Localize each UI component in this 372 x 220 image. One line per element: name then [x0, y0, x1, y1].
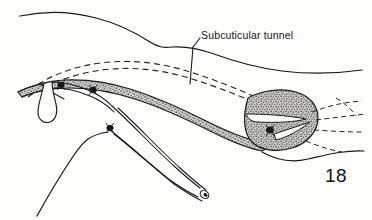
figure-number: 18 — [325, 166, 347, 185]
upper-skin-contour — [20, 12, 362, 73]
suture-knot-catheter — [106, 123, 114, 133]
catheter-tip — [199, 189, 211, 200]
annotation-leader-line — [190, 38, 200, 84]
right-skin-contour — [262, 151, 364, 161]
surgical-figure: Subcuticular tunnel 18 — [0, 0, 372, 220]
subcuticular-tunnel-label: Subcuticular tunnel — [201, 30, 293, 41]
figure-illustration — [0, 0, 372, 220]
lower-skin-contour — [37, 132, 108, 216]
